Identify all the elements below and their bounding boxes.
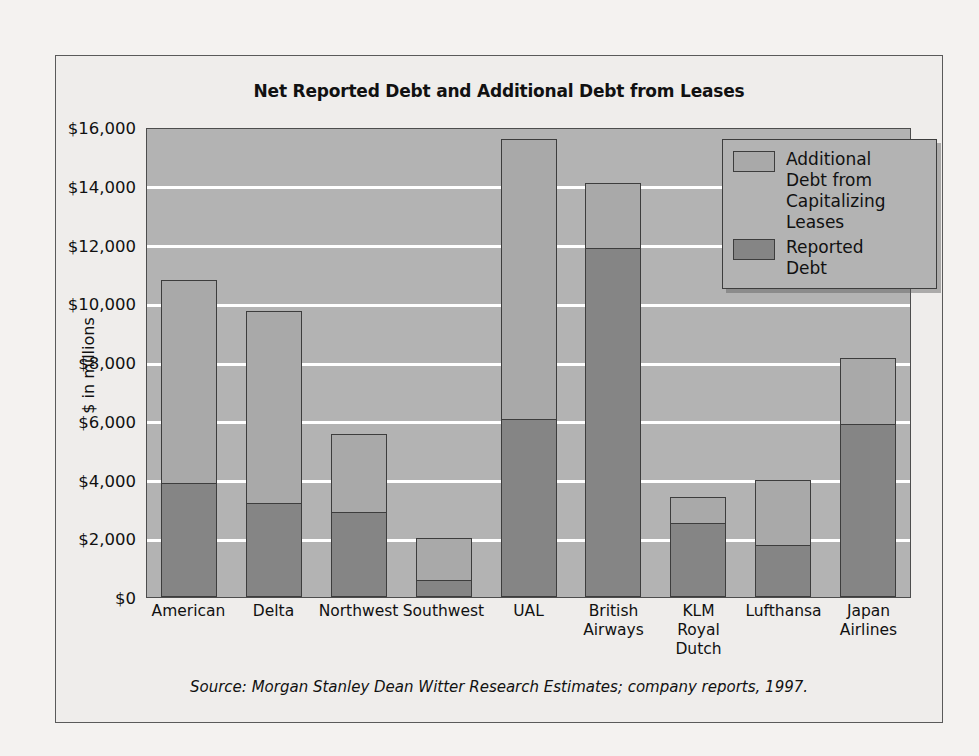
- x-axis-label-line: Lufthansa: [741, 602, 826, 621]
- bar-stack[interactable]: [416, 538, 472, 597]
- bar-segment-reported-debt[interactable]: [671, 523, 725, 596]
- x-axis-label-line: UAL: [486, 602, 571, 621]
- bar-slot: [571, 129, 656, 597]
- bar-segment-additional-debt[interactable]: [162, 281, 216, 483]
- plot-area: AdditionalDebt fromCapitalizingLeasesRep…: [146, 128, 911, 598]
- bar-segment-reported-debt[interactable]: [841, 424, 895, 596]
- bar-segment-reported-debt[interactable]: [586, 248, 640, 596]
- bar-segment-additional-debt[interactable]: [247, 312, 301, 503]
- y-axis-tick-label: $8,000: [78, 354, 136, 373]
- legend-label-line: Debt: [786, 258, 864, 279]
- bar-slot: [317, 129, 402, 597]
- x-axis-category-label: JapanAirlines: [826, 602, 911, 659]
- bar-segment-additional-debt[interactable]: [332, 435, 386, 512]
- bar-stack[interactable]: [331, 434, 387, 597]
- bar-segment-additional-debt[interactable]: [502, 140, 556, 419]
- x-axis-category-label: KLMRoyalDutch: [656, 602, 741, 659]
- x-axis-category-label: Northwest: [316, 602, 401, 659]
- bar-segment-additional-debt[interactable]: [671, 498, 725, 522]
- x-axis-category-label: Delta: [231, 602, 316, 659]
- figure-frame: Net Reported Debt and Additional Debt fr…: [55, 55, 943, 723]
- bar-segment-reported-debt[interactable]: [502, 419, 556, 596]
- source-note: Source: Morgan Stanley Dean Witter Resea…: [56, 678, 942, 696]
- legend-label-line: Capitalizing: [786, 191, 886, 212]
- x-axis-label-line: Delta: [231, 602, 316, 621]
- y-axis-tick-label: $6,000: [78, 412, 136, 431]
- y-axis-tick-label: $16,000: [68, 119, 136, 138]
- x-axis-label-line: British: [571, 602, 656, 621]
- x-axis-category-label: UAL: [486, 602, 571, 659]
- x-axis-category-label: American: [146, 602, 231, 659]
- x-axis-label-line: KLM: [656, 602, 741, 621]
- bar-segment-reported-debt[interactable]: [417, 580, 471, 596]
- x-axis-label-line: Airways: [571, 621, 656, 640]
- y-axis-tick-label: $14,000: [68, 177, 136, 196]
- bar-segment-additional-debt[interactable]: [756, 481, 810, 546]
- bar-segment-additional-debt[interactable]: [586, 184, 640, 248]
- legend-label-line: Leases: [786, 212, 886, 233]
- x-axis-category-label: Southwest: [401, 602, 486, 659]
- bar-segment-reported-debt[interactable]: [162, 483, 216, 596]
- bar-slot: [401, 129, 486, 597]
- legend-item-label: ReportedDebt: [786, 237, 864, 279]
- y-axis-tick-label: $2,000: [78, 530, 136, 549]
- x-axis-label-line: Northwest: [316, 602, 401, 621]
- x-axis-category-label: BritishAirways: [571, 602, 656, 659]
- bar-stack[interactable]: [501, 139, 557, 597]
- legend-item[interactable]: ReportedDebt: [733, 237, 926, 279]
- bar-stack[interactable]: [161, 280, 217, 597]
- x-axis-category-label: Lufthansa: [741, 602, 826, 659]
- bar-stack[interactable]: [840, 358, 896, 597]
- y-axis-tick-label: $12,000: [68, 236, 136, 255]
- x-axis-label-line: Dutch: [656, 640, 741, 659]
- legend-swatch-icon: [733, 239, 775, 260]
- y-axis-tick-label: $4,000: [78, 471, 136, 490]
- bar-stack[interactable]: [246, 311, 302, 597]
- x-axis-label-line: Japan: [826, 602, 911, 621]
- x-axis-label-line: Airlines: [826, 621, 911, 640]
- x-axis-category-labels: AmericanDeltaNorthwestSouthwestUALBritis…: [146, 602, 911, 659]
- legend-label-line: Reported: [786, 237, 864, 258]
- x-axis-label-line: American: [146, 602, 231, 621]
- bar-segment-reported-debt[interactable]: [756, 545, 810, 596]
- y-axis-tick-label: $10,000: [68, 295, 136, 314]
- bar-segment-additional-debt[interactable]: [417, 539, 471, 580]
- chart-legend: AdditionalDebt fromCapitalizingLeasesRep…: [722, 139, 937, 289]
- bar-stack[interactable]: [585, 183, 641, 597]
- x-axis-label-line: Royal: [656, 621, 741, 640]
- y-axis-tick-label: $0: [115, 589, 136, 608]
- bar-stack[interactable]: [755, 480, 811, 598]
- x-axis-label-line: Southwest: [401, 602, 486, 621]
- legend-label-line: Additional: [786, 149, 886, 170]
- bar-segment-additional-debt[interactable]: [841, 359, 895, 425]
- bar-stack[interactable]: [670, 497, 726, 597]
- legend-label-line: Debt from: [786, 170, 886, 191]
- legend-item[interactable]: AdditionalDebt fromCapitalizingLeases: [733, 149, 926, 233]
- bar-slot: [486, 129, 571, 597]
- bar-segment-reported-debt[interactable]: [247, 503, 301, 596]
- legend-item-label: AdditionalDebt fromCapitalizingLeases: [786, 149, 886, 233]
- bar-segment-reported-debt[interactable]: [332, 512, 386, 596]
- chart-title: Net Reported Debt and Additional Debt fr…: [56, 81, 942, 101]
- bar-slot: [232, 129, 317, 597]
- bar-slot: [147, 129, 232, 597]
- legend-swatch-icon: [733, 151, 775, 172]
- y-axis-tick-labels: $16,000$14,000$12,000$10,000$8,000$6,000…: [56, 128, 144, 598]
